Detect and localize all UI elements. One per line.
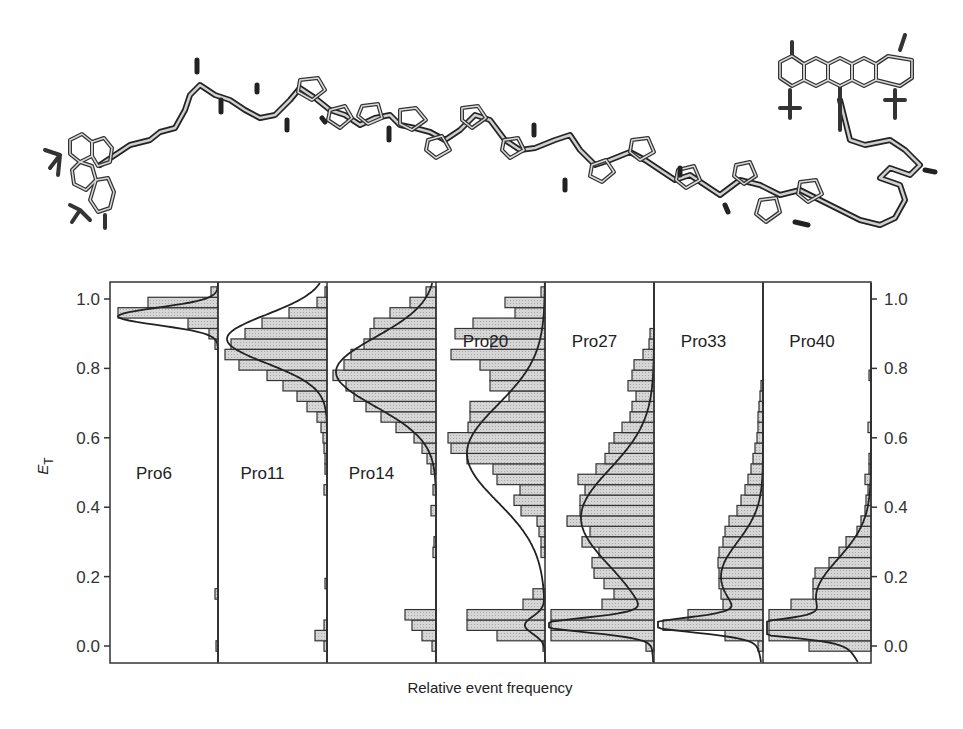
- histogram-bar: [594, 568, 654, 578]
- histogram-bar: [262, 318, 327, 328]
- histogram-bar: [769, 630, 871, 640]
- histogram-bar: [769, 620, 871, 630]
- histogram-bar: [719, 547, 763, 557]
- panel-pro20: Pro20: [448, 283, 545, 662]
- y-tick-label-right: 0.8: [884, 359, 908, 378]
- y-tick-label: 0.8: [76, 359, 100, 378]
- histogram-bar: [737, 505, 763, 515]
- y-tick-label-right: 0.0: [884, 637, 908, 656]
- svg-text:ET: ET: [34, 457, 56, 475]
- panel-label: Pro27: [572, 332, 617, 351]
- histogram-bar: [333, 370, 436, 380]
- histogram-bar: [267, 370, 327, 380]
- histogram-bar: [521, 505, 545, 515]
- histogram-bar: [422, 630, 436, 640]
- histogram-bar: [632, 370, 654, 380]
- histogram-bar: [351, 349, 436, 359]
- histogram-bar: [748, 474, 763, 484]
- histogram-bar: [791, 599, 871, 609]
- histogram-bar: [493, 464, 545, 474]
- histogram-bar: [537, 516, 545, 526]
- y-tick-label: 0.2: [76, 568, 100, 587]
- histogram-bar: [317, 297, 327, 307]
- y-tick-label-right: 1.0: [884, 290, 908, 309]
- histogram-bar: [604, 578, 654, 588]
- histogram-bar: [515, 308, 545, 318]
- histogram-bar: [470, 412, 545, 422]
- panel-pro40: Pro40: [767, 283, 871, 662]
- histogram-bar: [467, 620, 545, 630]
- histogram-bar: [188, 318, 218, 328]
- histogram-bar: [245, 328, 327, 338]
- histogram-bar: [354, 391, 436, 401]
- histogram-bar: [344, 360, 436, 370]
- panel-label: Pro6: [136, 464, 172, 483]
- histogram-bar: [473, 318, 545, 328]
- histogram-bar: [813, 589, 871, 599]
- y-tick-label-right: 0.6: [884, 429, 908, 448]
- histogram-bar: [755, 443, 763, 453]
- left-y-axis: 0.00.20.40.60.81.0: [76, 290, 110, 656]
- histogram-bar: [643, 349, 654, 359]
- histogram-bar: [567, 516, 654, 526]
- histogram-bar: [602, 599, 654, 609]
- histogram-bar: [751, 464, 763, 474]
- histogram-bar: [509, 391, 545, 401]
- histogram-bar: [622, 422, 654, 432]
- histogram-bar: [632, 401, 654, 411]
- histogram-bar: [505, 297, 545, 307]
- panel-label: Pro20: [463, 332, 508, 351]
- histogram-bar: [470, 401, 545, 411]
- panel-label: Pro33: [681, 332, 726, 351]
- histogram-bar: [490, 370, 545, 380]
- histogram-bar: [630, 412, 654, 422]
- histogram-bar: [412, 620, 436, 630]
- y-tick-label: 0.6: [76, 429, 100, 448]
- histogram-bar: [723, 537, 763, 547]
- histogram-bar: [381, 412, 436, 422]
- histogram-bar: [614, 589, 654, 599]
- histogram-bar: [605, 453, 654, 463]
- y-tick-label: 1.0: [76, 290, 100, 309]
- panel-pro11: Pro11: [225, 283, 327, 662]
- histogram-bar: [539, 526, 545, 536]
- panel-pro14: Pro14: [333, 283, 436, 662]
- panel-label: Pro11: [240, 464, 284, 483]
- histogram-bar: [592, 558, 654, 568]
- histogram-bar: [497, 474, 545, 484]
- histogram-bar: [497, 630, 545, 640]
- y-tick-label: 0.0: [76, 637, 100, 656]
- histogram-bar: [634, 360, 654, 370]
- histogram-bar: [239, 360, 327, 370]
- panel-label: Pro40: [789, 332, 834, 351]
- histogram-bar: [551, 620, 654, 630]
- histogram-bar: [346, 381, 436, 391]
- histogram-bar: [364, 339, 436, 349]
- histogram-bar: [514, 495, 545, 505]
- y-tick-label-right: 0.4: [884, 498, 908, 517]
- histogram-bar: [628, 381, 654, 391]
- panel-pro27: Pro27: [549, 283, 654, 662]
- x-axis-title: Relative event frequency: [407, 679, 573, 696]
- panel-label: Pro14: [349, 464, 394, 483]
- histogram-bar: [480, 360, 545, 370]
- panel-pro6: Pro6: [118, 283, 218, 662]
- histogram-panels: Pro6Pro11Pro14Pro20Pro27Pro33Pro40: [118, 283, 871, 662]
- y-tick-label: 0.4: [76, 498, 100, 517]
- y-axis-title: ET: [34, 457, 56, 475]
- histogram-bar: [467, 610, 545, 620]
- histogram-bar: [719, 578, 763, 588]
- histogram-bar: [451, 349, 545, 359]
- histogram-bar: [729, 516, 763, 526]
- histogram-bar: [118, 308, 218, 318]
- y-tick-label-right: 0.2: [884, 568, 908, 587]
- histogram-bar: [467, 453, 545, 463]
- panel-pro33: Pro33: [658, 283, 763, 662]
- y-axis-title-sub: T: [42, 457, 56, 465]
- histogram-bar: [451, 443, 545, 453]
- histogram-bar: [520, 485, 545, 495]
- histogram-bar: [315, 630, 327, 640]
- histogram-bar: [448, 433, 545, 443]
- histogram-bar: [405, 610, 436, 620]
- histogram-bar: [599, 547, 654, 557]
